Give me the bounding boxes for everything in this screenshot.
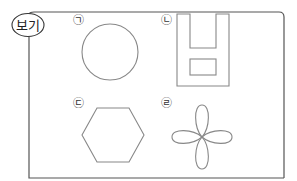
item-a: ㉠ [73,14,139,80]
circle-shape [82,24,138,80]
inner-rectangle [190,59,216,75]
example-label: 보기 [12,14,44,37]
item-d-marker: ㉣ [161,97,172,110]
example-frame [29,12,284,178]
flower-shape [172,105,232,169]
hexagon-shape [82,108,144,162]
item-c: ㉢ [73,97,145,162]
item-b-marker: ㉡ [161,14,172,27]
item-c-marker: ㉢ [73,97,84,110]
item-b: ㉡ [161,14,230,86]
example-label-text: 보기 [16,18,40,33]
item-a-marker: ㉠ [73,14,84,27]
item-d: ㉣ [161,97,233,169]
example-box: 보기 ㉠ ㉡ ㉢ ㉣ [0,0,297,181]
